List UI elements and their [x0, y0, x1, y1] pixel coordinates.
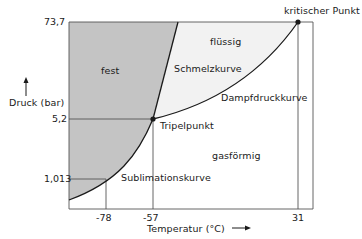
- region-gas-label: gasförmig: [212, 151, 261, 161]
- x-tick-minus-78: -78: [96, 213, 112, 223]
- critical-point-label: kritischer Punkt: [284, 6, 360, 16]
- critical-point-marker: [295, 19, 300, 24]
- sublimation-curve-label: Sublimationskurve: [121, 173, 211, 183]
- vapor-pressure-curve-label: Dampfdruckkurve: [221, 93, 308, 103]
- y-axis-arrow-head: [24, 77, 29, 83]
- melting-curve-label: Schmelzkurve: [174, 64, 242, 74]
- x-axis-arrow-head: [245, 226, 251, 231]
- region-solid-label: fest: [101, 66, 119, 76]
- triple-point-label: Tripelpunkt: [160, 121, 214, 131]
- triple-point-marker: [150, 116, 155, 121]
- y-tick-1-013: 1,013: [44, 174, 71, 184]
- y-axis-label: Druck (bar): [9, 98, 64, 108]
- y-tick-73-7: 73,7: [44, 17, 65, 27]
- region-liquid-label: flüssig: [210, 37, 241, 47]
- x-tick-minus-57: -57: [143, 213, 159, 223]
- x-tick-31: 31: [292, 213, 304, 223]
- x-axis-label: Temperatur (°C): [147, 224, 225, 234]
- y-tick-5-2: 5,2: [52, 114, 67, 124]
